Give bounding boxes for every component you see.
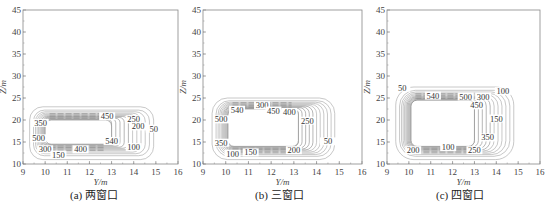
x-tick-label: 14 (492, 167, 502, 177)
y-tick-label: 15 (376, 137, 386, 147)
y-axis-label: Z/m (362, 80, 372, 95)
contour-level-label: 50 (398, 83, 407, 93)
contour-level-label: 350 (481, 132, 494, 142)
y-tick-label: 45 (376, 5, 386, 15)
contour-level-label: 100 (496, 86, 509, 96)
y-tick-label: 35 (376, 49, 386, 59)
caption-c: (c) 四窗口 (436, 186, 484, 202)
contour-level-label: 450 (470, 100, 483, 110)
y-tick-label: 20 (376, 115, 386, 125)
contour-level-label: 100 (442, 142, 455, 152)
y-tick-label: 40 (376, 27, 386, 37)
contour-plot-c: 9101112131415161015202530354045Y/mZ/m505… (0, 0, 551, 205)
x-tick-label: 10 (404, 167, 414, 177)
y-tick-label: 30 (376, 71, 386, 81)
contour-level-label: 250 (468, 145, 481, 155)
x-tick-label: 12 (448, 167, 457, 177)
contour-level-label: 200 (407, 145, 420, 155)
contour-level-label: 540 (427, 91, 440, 101)
x-tick-label: 13 (470, 167, 480, 177)
y-tick-label: 10 (376, 159, 386, 169)
x-tick-label: 9 (385, 167, 390, 177)
panel-c: 9101112131415161015202530354045Y/mZ/m505… (0, 0, 551, 205)
x-tick-label: 15 (514, 167, 524, 177)
y-tick-label: 25 (376, 93, 386, 103)
x-tick-label: 11 (426, 167, 435, 177)
x-tick-label: 16 (536, 167, 546, 177)
contour-level-label: 150 (490, 114, 503, 124)
